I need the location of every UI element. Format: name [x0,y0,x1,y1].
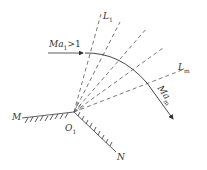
wall-right [74,112,116,152]
wall-right-label: N [117,153,125,162]
inflow-mach-label: Ma1>1 [49,40,81,51]
wall-left [22,112,74,123]
diagram-canvas [0,0,207,170]
mach-wave-L1 [74,14,101,112]
expansion-fan-diagram: Ma1>1 L1 Lm Mam M N O1 [0,0,207,170]
mach-wave-4 [74,48,163,112]
first-wave-label: L1 [103,12,113,23]
corner-label: O1 [65,124,76,135]
last-wave-label: Lm [178,63,190,74]
wall-left-label: M [12,113,21,122]
